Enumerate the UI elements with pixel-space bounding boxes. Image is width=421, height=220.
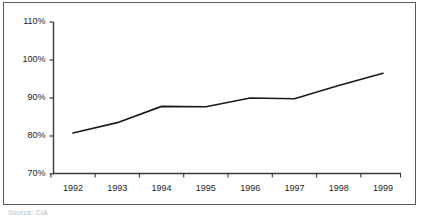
x-axis-tick-label: 1996 [230,183,270,193]
chart-axes [53,22,401,174]
x-axis-tick-label: 1992 [53,183,93,193]
chart-figure: 70%80%90%100%110% 1992199319941995199619… [0,0,421,220]
x-axis-tick-label: 1995 [186,183,226,193]
data-series-line [73,73,383,133]
y-axis-tick-label: 110% [12,16,46,26]
x-axis-tick-label: 1998 [319,183,359,193]
x-axis-tick-label: 1993 [97,183,137,193]
y-axis-tick-label: 80% [12,130,46,140]
x-axis-tick-label: 1997 [274,183,314,193]
x-axis-tick-label: 1999 [363,183,403,193]
x-axis-tick-label: 1994 [142,183,182,193]
y-axis-tick-label: 70% [12,168,46,178]
y-axis-tick-label: 90% [12,92,46,102]
y-axis-tick-label: 100% [12,54,46,64]
source-caption: Source: CIA [8,209,48,216]
